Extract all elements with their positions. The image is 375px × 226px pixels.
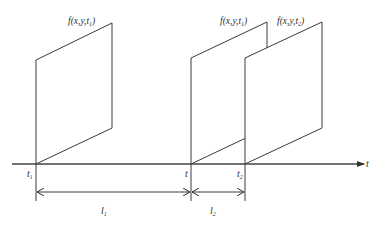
frame-label-t: f(x,y,t1) [220,16,247,27]
interval-label-l1: l1 [101,205,107,217]
frame-plane-t1 [36,23,112,164]
tick-label-t: t [185,168,188,179]
frame-label-t2: f(x,y,t2) [277,16,304,27]
axis-label-t: t [366,158,369,169]
frame-sequence-diagram: f(x,y,t1) f(x,y,t1) f(x,y,t2) t t1 t t2 … [0,0,375,226]
interval-label-l2: l2 [210,205,216,217]
tick-label-t1: t1 [27,168,33,180]
frame-label-t1: f(x,y,t1) [68,16,95,27]
tick-label-t2: t2 [237,168,243,180]
